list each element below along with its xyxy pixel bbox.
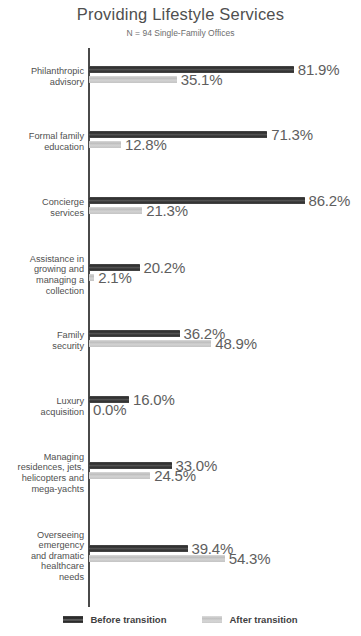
bar-rect-after <box>89 141 121 148</box>
category-label-line: Formal family <box>0 131 84 142</box>
legend-item-after[interactable]: After transition <box>202 614 297 625</box>
bar-rect-after <box>89 340 211 347</box>
category-label-line: and dramatic <box>0 551 84 562</box>
bar-rect-after <box>89 472 150 479</box>
category-label-line: helicopters and <box>0 473 84 484</box>
category-label-line: Concierge <box>0 197 84 208</box>
chart-container: Providing Lifestyle Services N = 94 Sing… <box>0 0 361 636</box>
bar-value-label: 48.9% <box>215 335 257 352</box>
bar-rect-before <box>89 330 180 337</box>
category-label-line: collection <box>0 286 84 297</box>
category-label-line: Overseeing <box>0 530 84 541</box>
category-label: Philanthropicadvisory <box>0 66 84 87</box>
bar-rect-after <box>89 76 177 83</box>
legend-label-after: After transition <box>229 614 297 625</box>
bar-value-label: 2.1% <box>98 269 131 286</box>
category-label-line: managing a <box>0 275 84 286</box>
bar-value-label: 24.5% <box>154 467 196 484</box>
category-label: Formal familyeducation <box>0 131 84 152</box>
bar-rect-after <box>89 555 225 562</box>
category-label-line: growing and <box>0 264 84 275</box>
category-label-line: advisory <box>0 77 84 88</box>
bar-value-label: 16.0% <box>133 391 175 408</box>
category-label-line: Philanthropic <box>0 66 84 77</box>
legend-label-before: Before transition <box>90 614 166 625</box>
bar-value-label: 21.3% <box>146 202 188 219</box>
bar-value-label: 0.0% <box>93 401 126 418</box>
category-label-line: residences, jets, <box>0 462 84 473</box>
legend-swatch-after-icon <box>202 616 222 623</box>
category-label: Overseeingemergencyand dramatichealthcar… <box>0 530 84 583</box>
category-label-line: acquisition <box>0 407 84 418</box>
category-label: Familysecurity <box>0 330 84 351</box>
category-label-line: education <box>0 142 84 153</box>
category-label-line: Managing <box>0 452 84 463</box>
bar-rect-before <box>89 131 267 138</box>
bar-value-label: 12.8% <box>125 136 167 153</box>
category-label-line: mega-yachts <box>0 484 84 495</box>
legend-item-before[interactable]: Before transition <box>63 614 166 625</box>
category-label-line: Family <box>0 330 84 341</box>
bar-value-label: 71.3% <box>271 126 313 143</box>
category-label: Assistance ingrowing andmanaging acollec… <box>0 254 84 296</box>
bar-value-label: 20.2% <box>144 259 186 276</box>
category-label: Managingresidences, jets,helicopters and… <box>0 452 84 494</box>
category-label-line: security <box>0 341 84 352</box>
legend-swatch-before-icon <box>63 616 83 623</box>
bar-rect-after <box>89 207 142 214</box>
bar-rect-before <box>89 197 305 204</box>
bar-rect-before <box>89 545 188 552</box>
category-label-line: healthcare <box>0 561 84 572</box>
category-label: Luxuryacquisition <box>0 396 84 417</box>
chart-legend: Before transition After transition <box>0 614 361 625</box>
category-label-line: services <box>0 208 84 219</box>
bar-rect-after <box>89 274 94 281</box>
category-label-line: needs <box>0 572 84 583</box>
bar-value-label: 54.3% <box>229 550 271 567</box>
bar-value-label: 86.2% <box>309 192 351 209</box>
category-label-line: Luxury <box>0 396 84 407</box>
category-label-line: emergency <box>0 540 84 551</box>
bar-value-label: 35.1% <box>181 71 223 88</box>
category-label-line: Assistance in <box>0 254 84 265</box>
category-label: Conciergeservices <box>0 197 84 218</box>
bar-value-label: 81.9% <box>298 61 340 78</box>
plot-area: Philanthropicadvisory81.9%35.1%Formal fa… <box>0 0 361 636</box>
